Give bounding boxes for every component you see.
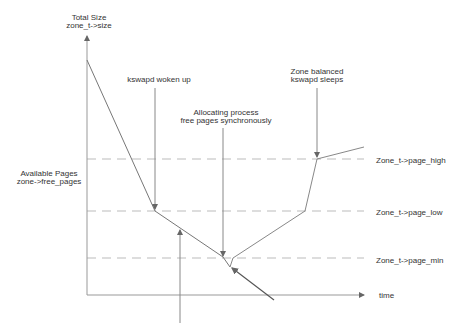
page-low-label: Zone_t->page_low [376,208,443,217]
page-high-label: Zone_t->page_high [376,156,446,165]
available-pages-label-line2: zone->free_pages [17,177,82,186]
free-pages-recovery-curve [230,147,364,267]
kswapd-woken-label: kswapd woken up [127,75,191,84]
y-axis-label-line2: zone_t->size [66,21,112,30]
page-min-label: Zone_t->page_min [376,256,443,265]
time-axis-label: time [379,291,395,300]
allocating-label-line2: free pages synchronously [180,116,271,125]
free-pages-descending-curve [87,60,230,267]
kswapd-watermark-diagram: Total Size zone_t->size Available Pages … [0,0,458,323]
zone-balanced-label-line2: kswapd sleeps [291,75,343,84]
